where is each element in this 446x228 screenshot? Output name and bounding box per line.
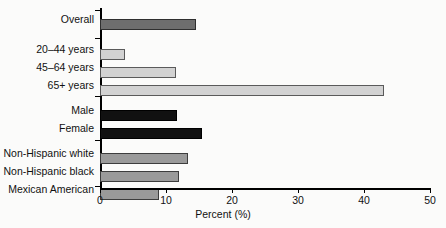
x-axis-title: Percent (%) <box>0 208 446 220</box>
x-axis-tick-0 <box>100 188 101 193</box>
category-label-male: Male <box>71 105 94 116</box>
x-axis-label-50: 50 <box>410 194 446 206</box>
bar-male <box>100 110 177 121</box>
category-label-female: Female <box>59 123 94 134</box>
bar-chart: Overall 20–44 years 45–64 years 65+ year… <box>0 0 446 228</box>
y-axis-tick-race <box>95 140 100 141</box>
category-label-age-65-plus: 65+ years <box>48 80 94 91</box>
category-label-nh-black: Non-Hispanic black <box>4 166 94 177</box>
bar-female <box>100 128 202 139</box>
plot-area <box>100 8 430 188</box>
x-axis-label-0: 0 <box>80 194 120 206</box>
category-label-age-45-64: 45–64 years <box>36 62 94 73</box>
bar-age-65-plus <box>100 85 384 96</box>
y-axis-tick-sex <box>95 96 100 97</box>
category-label-nh-white: Non-Hispanic white <box>4 148 94 159</box>
x-axis-line <box>100 188 430 190</box>
bar-age-45-64 <box>100 67 176 78</box>
x-axis-tick-50 <box>430 188 431 193</box>
category-label-age-20-44: 20–44 years <box>36 44 94 55</box>
y-axis-tick-age <box>95 38 100 39</box>
x-axis-tick-40 <box>364 188 365 193</box>
x-axis-label-20: 20 <box>212 194 252 206</box>
bar-nh-black <box>100 171 179 182</box>
y-axis-tick-top <box>95 10 100 11</box>
bar-age-20-44 <box>100 49 125 60</box>
x-axis-label-30: 30 <box>278 194 318 206</box>
bar-overall <box>100 19 196 30</box>
x-axis-tick-30 <box>298 188 299 193</box>
x-axis-label-40: 40 <box>344 194 384 206</box>
x-axis-tick-20 <box>232 188 233 193</box>
category-axis-labels: Overall 20–44 years 45–64 years 65+ year… <box>0 0 98 186</box>
bar-nh-white <box>100 153 188 164</box>
x-axis-label-10: 10 <box>146 194 186 206</box>
x-axis-tick-10 <box>166 188 167 193</box>
category-label-overall: Overall <box>61 14 94 25</box>
